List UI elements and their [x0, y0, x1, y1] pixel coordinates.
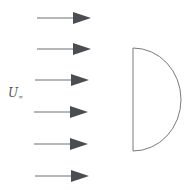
- half-cylinder-body: [133, 48, 181, 151]
- arrow-head-icon: [70, 106, 88, 118]
- flow-arrow: [37, 12, 91, 24]
- freestream-velocity-label: U∞: [8, 86, 23, 100]
- arrow-head-icon: [71, 74, 89, 86]
- flow-arrow: [35, 170, 89, 182]
- arrow-head-icon: [71, 170, 89, 182]
- arrow-head-icon: [73, 12, 91, 24]
- flow-diagram: [0, 0, 190, 190]
- arrow-head-icon: [70, 138, 88, 150]
- flow-arrow: [37, 43, 91, 55]
- velocity-symbol: U: [8, 86, 18, 100]
- flow-arrow: [34, 106, 88, 118]
- flow-arrow: [35, 74, 89, 86]
- flow-arrow: [34, 138, 88, 150]
- arrow-head-icon: [73, 43, 91, 55]
- flow-arrows: [34, 12, 91, 182]
- velocity-subscript: ∞: [18, 93, 23, 100]
